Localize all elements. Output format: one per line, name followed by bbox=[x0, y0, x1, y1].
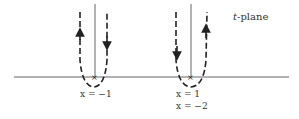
left-singularity-label: x = −1 bbox=[80, 89, 112, 99]
singularity-x-icon: × bbox=[187, 73, 194, 82]
plane-label: t-plane bbox=[233, 11, 268, 22]
right-singularity-label-1: x = 1 bbox=[176, 89, 200, 99]
singularity-x-icon: × bbox=[91, 73, 98, 82]
right-singularity-label-2: x = −2 bbox=[176, 101, 208, 111]
